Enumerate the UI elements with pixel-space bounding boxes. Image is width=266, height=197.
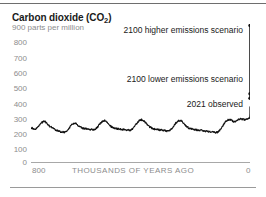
plot-area: [31, 24, 250, 162]
annotation-higher-emissions: 2100 higher emissions scenario: [123, 26, 243, 35]
x-axis-title: THOUSANDS OF YEARS AGO: [0, 167, 266, 175]
chart-title: Carbon dioxide (CO2): [12, 12, 111, 23]
chart-title-paren: ): [108, 12, 111, 23]
chart-figure: Carbon dioxide (CO2) 900 parts per milli…: [0, 0, 266, 197]
annotation-observed: 2021 observed: [187, 100, 243, 109]
x-axis-line: [31, 162, 250, 163]
y-tick-0: 0: [12, 159, 27, 167]
data-series-svg: [31, 24, 250, 162]
top-divider: [0, 3, 266, 4]
y-tick-700: 700: [12, 55, 27, 63]
ice-core-line: [31, 107, 250, 133]
y-tick-400: 400: [12, 101, 27, 109]
marker-dot-2100-higher: [248, 24, 250, 27]
y-tick-500: 500: [12, 85, 27, 93]
annotation-lower-emissions: 2100 lower emissions scenario: [127, 75, 243, 84]
y-tick-800: 800: [12, 39, 27, 47]
x-tick-0: 0: [246, 167, 250, 175]
y-tick-200: 200: [12, 131, 27, 139]
chart-title-text: Carbon dioxide (CO: [12, 12, 104, 23]
marker-dot-2100-lower: [248, 92, 250, 95]
y-tick-300: 300: [12, 116, 27, 124]
marker-dot-2021-observed: [248, 97, 250, 100]
bottom-divider: [10, 187, 256, 188]
y-tick-600: 600: [12, 70, 27, 78]
y-tick-100: 100: [12, 146, 27, 154]
